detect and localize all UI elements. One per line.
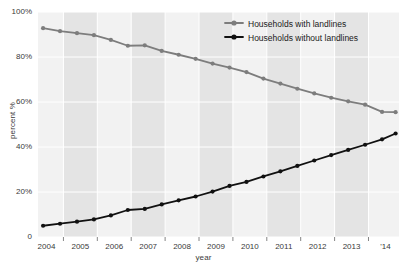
- y-tick-label: 40%: [2, 142, 32, 151]
- x-tick-label: '14: [365, 242, 405, 251]
- background-bands: [38, 12, 399, 237]
- y-tick-label: 100%: [2, 7, 32, 16]
- legend-item-with-landlines: Households with landlines: [248, 19, 346, 29]
- y-tick-label: 60%: [2, 97, 32, 106]
- legend-item-without-landlines: Households without landlines: [248, 33, 358, 43]
- y-tick-label: 0: [2, 232, 32, 241]
- y-tick-label: 80%: [2, 52, 32, 61]
- y-tick-label: 20%: [2, 187, 32, 196]
- x-tick-marks: [63, 237, 368, 241]
- chart-figure: percent % year 020%40%60%80%100% 2004200…: [0, 0, 407, 272]
